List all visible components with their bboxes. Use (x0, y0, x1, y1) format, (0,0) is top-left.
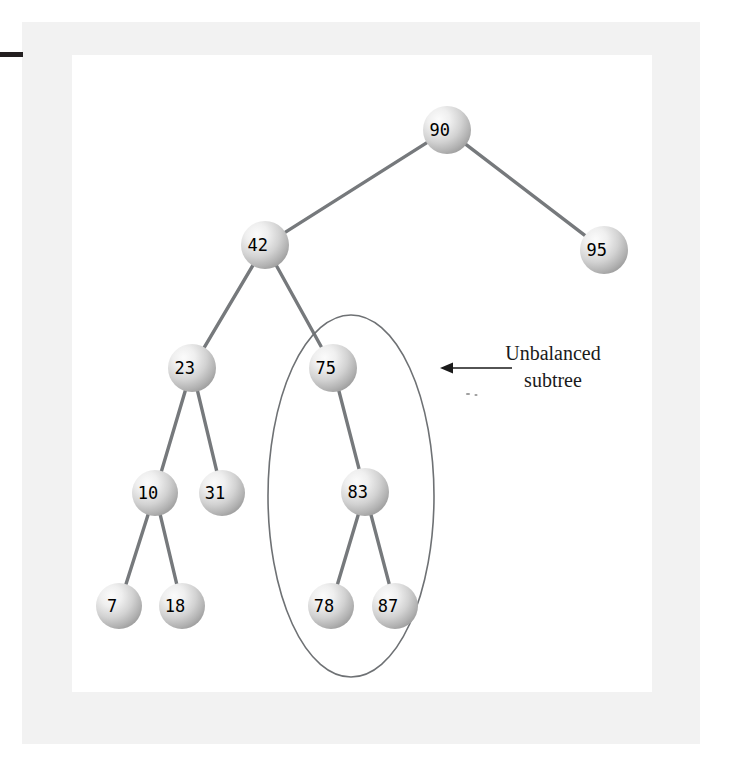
tree-node-31[interactable]: 31 (199, 470, 245, 516)
annotation-group: Unbalancedsubtree (440, 342, 601, 396)
node-sphere-7 (96, 583, 142, 629)
tree-node-78[interactable]: 78 (308, 583, 354, 629)
tree-node-87[interactable]: 87 (372, 583, 418, 629)
tree-edge-n23-n31 (197, 387, 218, 474)
tree-diagram-svg: 90429523751031837187887 Unbalancedsubtre… (0, 0, 735, 777)
tree-node-42[interactable]: 42 (241, 221, 289, 269)
node-label-18: 18 (165, 596, 185, 616)
node-label-10: 10 (138, 483, 158, 503)
tree-node-95[interactable]: 95 (580, 226, 628, 274)
figure-root: 90429523751031837187887 Unbalancedsubtre… (0, 0, 735, 777)
node-label-23: 23 (175, 358, 195, 378)
tree-edge-n75-n83 (338, 387, 360, 472)
annotation-arrow-head (440, 363, 453, 374)
scan-speck-1 (466, 393, 470, 395)
tree-node-23[interactable]: 23 (168, 344, 216, 392)
node-label-31: 31 (205, 483, 225, 503)
tree-node-7[interactable]: 7 (96, 583, 142, 629)
node-label-7: 7 (107, 596, 117, 616)
tree-node-90[interactable]: 90 (423, 106, 471, 154)
node-label-42: 42 (248, 235, 268, 255)
tree-edge-n23-n10 (160, 387, 186, 475)
scan-speck-2 (474, 394, 477, 396)
tree-node-83[interactable]: 83 (341, 468, 389, 516)
tree-edge-n42-n75 (275, 263, 324, 351)
tree-node-10[interactable]: 10 (132, 470, 178, 516)
tree-node-18[interactable]: 18 (159, 583, 205, 629)
tree-edge-n10-n7 (125, 511, 149, 588)
annotation-label-line1: Unbalanced (505, 342, 601, 364)
tree-edge-n90-n42 (282, 141, 430, 235)
tree-edge-n83-n78 (336, 511, 359, 588)
node-label-87: 87 (378, 596, 398, 616)
node-label-83: 83 (348, 482, 368, 502)
node-label-90: 90 (430, 120, 450, 140)
tree-edge-n42-n23 (202, 262, 255, 351)
node-label-95: 95 (587, 240, 607, 260)
node-label-78: 78 (314, 596, 334, 616)
tree-edge-n90-n95 (463, 142, 588, 238)
annotation-label-line2: subtree (524, 369, 582, 391)
tree-node-75[interactable]: 75 (309, 344, 357, 392)
tree-edge-n10-n18 (159, 511, 177, 587)
node-label-75: 75 (316, 358, 336, 378)
tree-edge-n83-n87 (370, 511, 390, 587)
